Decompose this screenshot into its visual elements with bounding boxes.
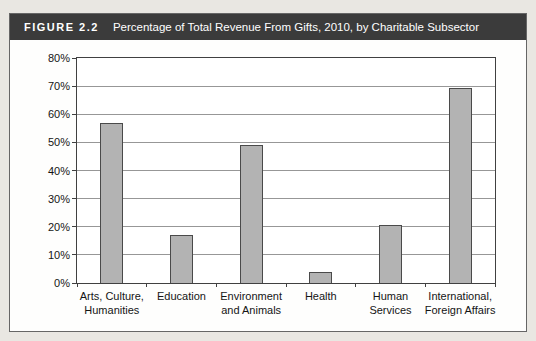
gridline xyxy=(77,114,495,115)
x-tick xyxy=(77,283,78,287)
gridline xyxy=(77,142,495,143)
x-tick xyxy=(216,283,217,287)
bar xyxy=(449,88,472,283)
page-background: { "figure": { "label": "FIGURE 2.2", "ti… xyxy=(0,0,536,341)
y-axis-label: 70% xyxy=(29,79,70,93)
y-tick xyxy=(72,86,77,87)
x-axis-label: International, Foreign Affairs xyxy=(417,289,503,317)
gridline xyxy=(77,226,495,227)
figure-box: FIGURE 2.2 Percentage of Total Revenue F… xyxy=(9,13,527,332)
plot-area: 0%10%20%30%40%50%60%70%80%Arts, Culture,… xyxy=(76,57,496,284)
bar xyxy=(100,123,123,283)
x-tick xyxy=(425,283,426,287)
y-axis-label: 20% xyxy=(29,220,70,234)
bar xyxy=(240,145,263,283)
y-tick xyxy=(72,198,77,199)
gridline xyxy=(77,170,495,171)
y-tick xyxy=(72,142,77,143)
y-axis-label: 60% xyxy=(29,107,70,121)
bar xyxy=(170,235,193,283)
y-tick xyxy=(72,226,77,227)
y-tick xyxy=(72,254,77,255)
bar xyxy=(379,225,402,283)
x-tick xyxy=(355,283,356,287)
figure-header: FIGURE 2.2 Percentage of Total Revenue F… xyxy=(10,14,526,40)
x-tick xyxy=(146,283,147,287)
x-tick xyxy=(495,283,496,287)
gridline xyxy=(77,198,495,199)
y-axis-label: 40% xyxy=(29,164,70,178)
figure-title: Percentage of Total Revenue From Gifts, … xyxy=(113,21,479,33)
y-tick xyxy=(72,114,77,115)
gridline xyxy=(77,254,495,255)
figure-label: FIGURE 2.2 xyxy=(24,21,99,33)
bar xyxy=(309,272,332,283)
y-axis-label: 30% xyxy=(29,192,70,206)
y-tick xyxy=(72,58,77,59)
y-axis-label: 50% xyxy=(29,135,70,149)
x-tick xyxy=(286,283,287,287)
y-axis-label: 10% xyxy=(29,248,70,262)
y-axis-label: 80% xyxy=(29,51,70,65)
gridline xyxy=(77,86,495,87)
y-tick xyxy=(72,170,77,171)
y-axis-label: 0% xyxy=(29,276,70,290)
